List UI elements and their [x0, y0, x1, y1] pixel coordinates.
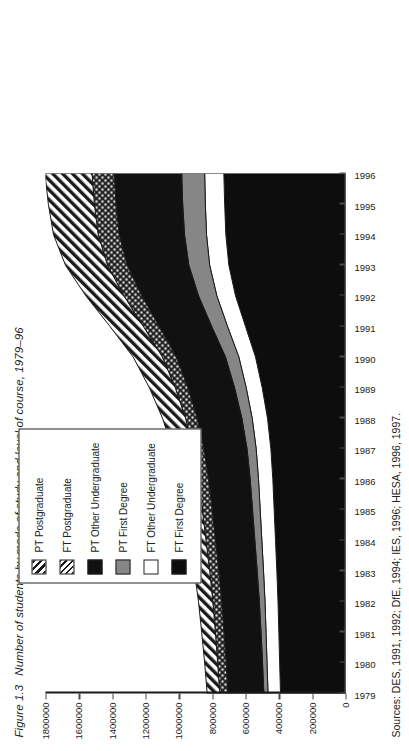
- value-tick-label: 1800000: [40, 702, 51, 739]
- figure-page: Figure 1.3Number of students by mode of …: [0, 0, 409, 751]
- legend-item: FT First Degree: [171, 482, 186, 574]
- category-tick: [339, 202, 345, 203]
- category-tick: [339, 294, 345, 295]
- sources-text: DES, 1991, 1992; DfE, 1994; IES, 1996; H…: [389, 412, 401, 692]
- category-tick-label: 1984: [354, 536, 375, 547]
- value-tick-label: 200000: [306, 702, 317, 734]
- category-tick: [339, 661, 345, 662]
- legend-label: PT Other Undergraduate: [89, 442, 100, 552]
- legend-item: PT First Degree: [115, 482, 130, 574]
- value-tick: [245, 693, 246, 699]
- value-axis-line: [45, 691, 345, 693]
- category-tick-label: 1993: [354, 261, 375, 272]
- category-tick-label: 1979: [354, 689, 375, 700]
- category-tick-label: 1991: [354, 322, 375, 333]
- category-tick: [339, 263, 345, 264]
- value-tick: [212, 693, 213, 699]
- category-tick-label: 1995: [354, 200, 375, 211]
- category-tick: [339, 539, 345, 540]
- category-tick: [339, 233, 345, 234]
- category-tick-label: 1980: [354, 658, 375, 669]
- category-tick: [339, 508, 345, 509]
- value-tick: [345, 693, 346, 699]
- value-tick-label: 0: [340, 702, 351, 707]
- legend-label: FT Postgraduate: [61, 478, 72, 552]
- category-tick: [339, 692, 345, 693]
- sources-note: Sources: DES, 1991, 1992; DfE, 1994; IES…: [389, 412, 401, 737]
- value-tick: [145, 693, 146, 699]
- category-tick: [339, 172, 345, 173]
- category-tick: [339, 478, 345, 479]
- legend-label: FT First Degree: [173, 482, 184, 552]
- category-tick-label: 1983: [354, 567, 375, 578]
- value-tick: [45, 693, 46, 699]
- category-tick-label: 1992: [354, 291, 375, 302]
- legend-swatch: [115, 559, 130, 574]
- category-tick: [339, 416, 345, 417]
- legend-label: FT Other Undergraduate: [145, 443, 156, 552]
- category-tick-label: 1981: [354, 628, 375, 639]
- legend-label: PT Postgraduate: [33, 477, 44, 552]
- value-tick: [278, 693, 279, 699]
- value-tick-label: 800000: [206, 702, 217, 734]
- value-tick: [78, 693, 79, 699]
- category-tick-label: 1989: [354, 383, 375, 394]
- category-tick-label: 1987: [354, 444, 375, 455]
- legend-item: FT Other Undergraduate: [143, 443, 158, 574]
- category-tick-label: 1986: [354, 475, 375, 486]
- chart-legend: PT PostgraduateFT PostgraduatePT Other U…: [18, 428, 201, 583]
- value-tick-label: 1400000: [106, 702, 117, 739]
- legend-item: PT Postgraduate: [31, 477, 46, 574]
- legend-swatch: [59, 559, 74, 574]
- category-tick: [339, 447, 345, 448]
- category-tick-label: 1990: [354, 353, 375, 364]
- category-tick: [339, 386, 345, 387]
- legend-item: FT Postgraduate: [59, 478, 74, 574]
- legend-swatch: [31, 559, 46, 574]
- sources-label: Sources:: [389, 696, 401, 737]
- legend-item: PT Other Undergraduate: [87, 442, 102, 574]
- category-axis-line: [344, 173, 345, 693]
- legend-swatch: [171, 559, 186, 574]
- legend-swatch: [87, 559, 102, 574]
- legend-label: PT First Degree: [117, 482, 128, 552]
- category-tick-label: 1982: [354, 597, 375, 608]
- category-tick: [339, 600, 345, 601]
- category-tick: [339, 569, 345, 570]
- value-tick-label: 1200000: [140, 702, 151, 739]
- category-tick: [339, 325, 345, 326]
- category-tick-label: 1988: [354, 414, 375, 425]
- figure-canvas: Figure 1.3Number of students by mode of …: [0, 0, 409, 751]
- category-tick: [339, 355, 345, 356]
- value-tick-label: 600000: [240, 702, 251, 734]
- figure-number: Figure 1.3: [12, 684, 24, 737]
- value-tick-label: 1000000: [173, 702, 184, 739]
- category-tick-label: 1996: [354, 169, 375, 180]
- value-tick: [312, 693, 313, 699]
- legend-swatch: [143, 559, 158, 574]
- value-tick: [112, 693, 113, 699]
- category-tick: [339, 630, 345, 631]
- value-tick: [178, 693, 179, 699]
- value-tick-label: 1600000: [73, 702, 84, 739]
- value-tick-label: 400000: [273, 702, 284, 734]
- category-tick-label: 1994: [354, 230, 375, 241]
- category-tick-label: 1985: [354, 505, 375, 516]
